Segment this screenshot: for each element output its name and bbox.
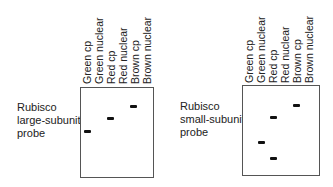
- lane-label: Green cp: [82, 41, 93, 84]
- probe-label-line: large-subunit: [17, 114, 81, 127]
- probe-label-line: probe: [180, 126, 245, 139]
- lane-label: Red nuclear: [280, 26, 291, 83]
- lane-label: Brown nuclear: [304, 16, 315, 83]
- probe-label-line: small-subunit: [180, 113, 245, 126]
- band-red-cp: [107, 117, 114, 120]
- lane-label: Brown cp: [292, 39, 303, 83]
- small-subunit-panel: Rubisco small-subunit probe Green cp Gre…: [165, 0, 333, 187]
- probe-label: Rubisco large-subunit probe: [17, 101, 81, 140]
- lane-label: Red nuclear: [118, 27, 129, 84]
- band-green-nuclear: [258, 141, 265, 144]
- probe-label-line: Rubisco: [180, 100, 245, 113]
- large-subunit-panel: Rubisco large-subunit probe Green cp Gre…: [0, 0, 165, 187]
- lane-label: Green nuclear: [94, 17, 105, 84]
- band-brown-cp: [130, 105, 137, 108]
- lane-label: Green cp: [244, 40, 255, 83]
- probe-label-line: Rubisco: [17, 101, 81, 114]
- lane-label: Brown nuclear: [142, 17, 153, 84]
- gel-blot: [242, 85, 320, 176]
- band-brown-cp: [293, 104, 300, 107]
- band-green-cp: [84, 130, 91, 133]
- probe-label: Rubisco small-subunit probe: [180, 100, 245, 139]
- band-red-cp: [270, 116, 277, 119]
- lane-label: Red cp: [106, 51, 117, 84]
- probe-label-line: probe: [17, 127, 81, 140]
- lane-label: Brown cp: [130, 40, 141, 84]
- lane-label: Green nuclear: [256, 16, 267, 83]
- gel-blot: [80, 87, 154, 178]
- lane-label: Red cp: [268, 50, 279, 83]
- band-red-cp-lower: [270, 157, 277, 160]
